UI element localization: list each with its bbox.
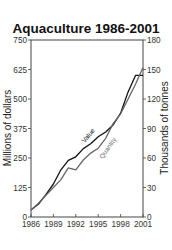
x-tick-label: 2001 <box>134 220 153 229</box>
left-tick-label: 625 <box>13 66 27 75</box>
right-tick-label: 180 <box>147 36 161 45</box>
chart-title: Aquaculture 1986-2001 <box>12 21 160 36</box>
left-tick-label: 250 <box>13 154 27 163</box>
x-axis-ticks: 198619891992199519982001 <box>22 214 153 229</box>
series-label-quantity: Quantity <box>98 135 119 160</box>
left-tick-label: 125 <box>13 184 27 193</box>
x-tick-label: 1995 <box>89 220 108 229</box>
x-tick-label: 1986 <box>22 220 41 229</box>
left-tick-label: 750 <box>13 36 27 45</box>
x-tick-label: 1998 <box>111 220 130 229</box>
left-axis-label: Millions of dollars <box>2 90 13 167</box>
right-tick-label: 30 <box>147 184 157 193</box>
x-tick-label: 1989 <box>44 220 63 229</box>
series-line-value <box>31 75 143 210</box>
left-axis-ticks: 0125250375500625750 <box>13 36 31 222</box>
right-axis-label: Thousands of tonnes <box>159 81 170 174</box>
aquaculture-line-chart: Aquaculture 1986-2001 012525037550062575… <box>0 0 172 250</box>
left-tick-label: 500 <box>13 95 27 104</box>
right-tick-label: 60 <box>147 154 157 163</box>
left-tick-label: 375 <box>13 125 27 134</box>
series-labels: ValueQuantity <box>80 127 118 161</box>
right-tick-label: 90 <box>147 125 157 134</box>
plot-frame <box>31 40 143 217</box>
x-tick-label: 1992 <box>67 220 86 229</box>
right-tick-label: 150 <box>147 66 161 75</box>
